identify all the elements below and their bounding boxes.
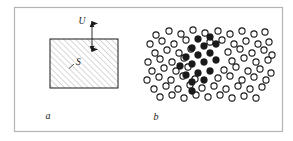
figure-container: S U a b: [0, 0, 293, 141]
open-circle: [217, 92, 223, 98]
open-circle: [262, 29, 268, 35]
open-circle: [215, 28, 221, 34]
open-circle: [149, 68, 155, 74]
open-circle: [169, 59, 175, 65]
open-circle: [223, 86, 229, 92]
area-label-s: S: [76, 57, 81, 67]
filled-circle: [195, 70, 202, 77]
open-circle: [211, 83, 217, 89]
filled-circle: [207, 50, 214, 57]
filled-circle: [213, 41, 220, 48]
open-circle: [235, 83, 241, 89]
open-circle: [163, 83, 169, 89]
open-circle: [221, 67, 227, 73]
open-circle: [257, 66, 263, 72]
panel-caption-b: b: [154, 111, 159, 122]
open-circle: [239, 77, 245, 83]
open-circle: [219, 37, 225, 43]
open-circle: [157, 94, 163, 100]
filled-circle: [195, 36, 202, 43]
filled-circle: [201, 77, 208, 84]
open-circle: [268, 70, 274, 76]
open-circle: [241, 55, 247, 61]
filled-circle: [189, 88, 196, 95]
open-circle: [144, 77, 150, 83]
open-circle: [259, 84, 265, 90]
open-circle: [175, 86, 181, 92]
open-circle: [251, 74, 257, 80]
open-circle: [169, 92, 175, 98]
filled-circle: [189, 61, 196, 68]
open-circle: [156, 74, 162, 80]
hatched-area-fill: [50, 39, 118, 88]
open-circle: [233, 64, 239, 70]
filled-circle: [213, 57, 220, 64]
open-circle: [243, 38, 249, 44]
filled-circle: [201, 59, 208, 66]
open-circle: [153, 32, 159, 38]
open-circle: [229, 95, 235, 101]
filled-circle: [183, 54, 190, 61]
open-circle: [266, 39, 272, 45]
open-circle: [251, 31, 257, 37]
open-circle: [168, 77, 174, 83]
open-circle: [215, 75, 221, 81]
open-circle: [178, 31, 184, 37]
open-circle: [227, 73, 233, 79]
panel-caption-a: a: [46, 110, 51, 121]
filled-circle: [207, 34, 214, 41]
open-circle: [227, 31, 233, 37]
open-circle: [159, 38, 165, 44]
open-circle: [199, 85, 205, 91]
open-circle: [231, 41, 237, 47]
open-circle: [152, 50, 158, 56]
filled-circle: [177, 63, 184, 70]
filled-circle: [195, 52, 202, 59]
displacement-label-u: U: [79, 16, 87, 26]
open-circle: [241, 93, 247, 99]
figure-canvas: S U a b: [0, 0, 293, 141]
open-circle: [261, 47, 267, 53]
open-circle: [183, 37, 189, 43]
filled-circle: [189, 79, 196, 86]
open-circle: [229, 58, 235, 64]
open-circle: [239, 28, 245, 34]
open-circle: [255, 41, 261, 47]
open-circle: [237, 46, 243, 52]
filled-circle: [183, 72, 190, 79]
open-circle: [157, 56, 163, 62]
open-circle: [164, 47, 170, 53]
open-circle: [166, 28, 172, 34]
open-circle: [225, 49, 231, 55]
filled-circle: [189, 45, 196, 52]
open-circle: [176, 50, 182, 56]
open-circle: [249, 50, 255, 56]
open-circle: [147, 41, 153, 47]
filled-circle: [201, 43, 208, 50]
open-circle: [151, 86, 157, 92]
open-circle: [263, 77, 269, 83]
open-circle: [190, 27, 196, 33]
open-circle: [171, 41, 177, 47]
open-circle: [205, 94, 211, 100]
open-circle: [181, 95, 187, 101]
filled-circle: [207, 68, 214, 75]
open-circle: [265, 57, 271, 63]
open-circle: [245, 68, 251, 74]
open-circle: [161, 65, 167, 71]
open-circle: [253, 59, 259, 65]
open-circle: [253, 95, 259, 101]
open-circle: [247, 86, 253, 92]
open-circle: [145, 59, 151, 65]
